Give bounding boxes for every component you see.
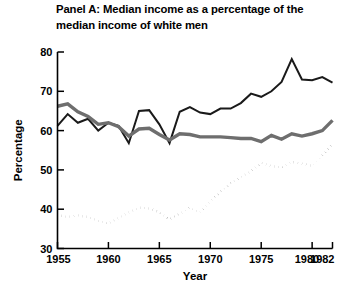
chart-figure: Panel A: Median income as a percentage o…	[0, 0, 361, 293]
x-tick-label-1982: 1982	[310, 253, 334, 265]
x-tick-label-1960: 1960	[96, 253, 120, 265]
y-tick-label-40: 40	[40, 203, 52, 215]
axis-label-layer: 3040506070801955196019651970197519801982…	[12, 46, 335, 282]
y-tick-label-60: 60	[40, 125, 52, 137]
series-layer	[58, 59, 333, 223]
x-tick-label-1975: 1975	[249, 253, 273, 265]
series-dotted-line	[58, 143, 333, 223]
series-black-line	[58, 59, 333, 143]
y-tick-label-50: 50	[40, 164, 52, 176]
x-tick-label-1970: 1970	[198, 253, 222, 265]
chart-plot-area: 3040506070801955196019651970197519801982…	[0, 0, 361, 293]
x-tick-label-1965: 1965	[147, 253, 171, 265]
axis-spines	[58, 52, 333, 249]
axis-layer	[58, 52, 333, 249]
x-axis-title: Year	[183, 270, 208, 282]
y-tick-label-80: 80	[40, 46, 52, 58]
x-tick-label-1955: 1955	[46, 253, 70, 265]
y-tick-label-70: 70	[40, 85, 52, 97]
y-axis-title: Percentage	[12, 119, 24, 181]
